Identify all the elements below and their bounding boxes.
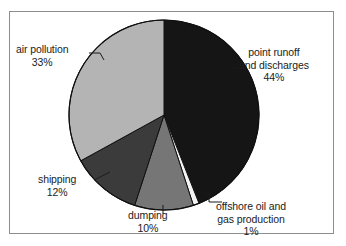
slice-label-offshore: offshore oil and gas production 1% — [216, 200, 286, 238]
slice-label-offshore-line1: offshore oil and — [216, 200, 286, 213]
slice-label-air-pollution-value: 33% — [16, 56, 68, 69]
slice-label-dumping: dumping 10% — [128, 209, 168, 234]
pie-slices-group — [69, 20, 259, 210]
slice-label-point-runoff: point runoff and discharges 44% — [239, 46, 309, 84]
pie-chart-graphic — [0, 0, 346, 246]
slice-label-air-pollution-name: air pollution — [16, 43, 68, 56]
slice-label-offshore-line2: gas production — [216, 213, 286, 226]
slice-label-air-pollution: air pollution 33% — [16, 43, 68, 68]
slice-label-point-runoff-line1: point runoff — [239, 46, 309, 59]
slice-label-shipping: shipping 12% — [38, 173, 76, 198]
slice-label-dumping-name: dumping — [128, 209, 168, 222]
slice-label-dumping-value: 10% — [128, 222, 168, 235]
slice-label-point-runoff-value: 44% — [239, 71, 309, 84]
slice-label-point-runoff-line2: and discharges — [239, 59, 309, 72]
slice-label-shipping-value: 12% — [38, 186, 76, 199]
slice-label-shipping-name: shipping — [38, 173, 76, 186]
slice-label-offshore-value: 1% — [216, 225, 286, 238]
pie-chart-figure: air pollution 33% point runoff and disch… — [0, 0, 346, 246]
